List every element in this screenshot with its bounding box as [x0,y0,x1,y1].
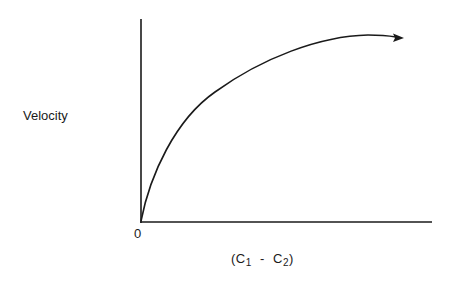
x-label-part: ) [289,251,294,266]
x-label-part: - C [252,251,283,266]
arrowhead-icon [393,34,404,43]
y-axis-label: Velocity [23,108,68,123]
x-axis-label: (C1 - C2) [231,251,294,268]
velocity-curve [141,35,396,221]
origin-label: 0 [134,226,141,241]
x-label-part: (C [231,251,246,266]
velocity-diagram [0,0,454,286]
